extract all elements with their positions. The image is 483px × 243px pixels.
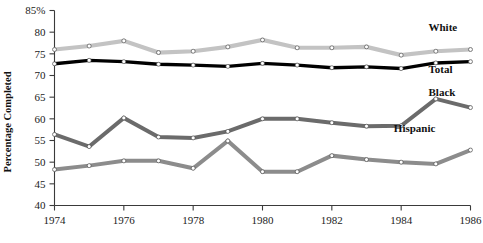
data-point-marker [330,66,334,70]
data-point-marker [191,166,195,170]
data-point-marker [226,130,230,134]
y-tick-label: 40 [35,199,47,211]
data-point-marker [87,145,91,149]
data-point-marker [157,51,161,55]
data-point-marker [157,135,161,139]
data-point-marker [87,58,91,62]
y-axis-title: Percentage Completed [2,71,13,172]
y-tick-label: 65 [35,91,47,103]
y-tick-label: 55 [35,134,47,146]
data-point-marker [191,63,195,67]
y-tick-label: 70 [35,69,47,81]
data-point-marker [226,45,230,49]
data-point-marker [365,45,369,49]
series-label-hispanic: Hispanic [394,122,436,134]
line-chart: Percentage Completed 4045505560657075808… [0,0,483,243]
y-tick-label: 85% [25,4,45,16]
series-line-hispanic [55,141,471,172]
data-point-marker [399,53,403,57]
data-point-marker [191,136,195,140]
data-point-marker [261,38,265,42]
y-tick-label: 60 [35,113,47,125]
data-point-marker [261,170,265,174]
y-tick-label: 50 [35,156,47,168]
chart-page: Percentage Completed 4045505560657075808… [0,0,483,243]
data-point-marker [295,63,299,67]
y-axis-title-text: Percentage Completed [2,71,13,172]
data-point-marker [261,117,265,121]
y-axis-ticks: 40455055606570758085% [25,4,54,211]
series-line-white [55,40,471,55]
data-point-marker [295,170,299,174]
x-tick-label: 1976 [113,214,136,226]
data-point-marker [122,60,126,64]
data-point-marker [365,65,369,69]
data-point-marker [53,62,57,66]
data-point-marker [434,162,438,166]
x-tick-label: 1984 [390,214,413,226]
data-point-marker [226,65,230,69]
data-point-marker [469,148,473,152]
data-point-marker [122,39,126,43]
data-point-marker [122,159,126,163]
x-tick-label: 1974 [44,214,67,226]
data-point-marker [365,158,369,162]
data-point-marker [53,168,57,172]
data-point-marker [295,46,299,50]
data-point-marker [295,117,299,121]
x-tick-label: 1978 [182,214,205,226]
data-point-marker [53,48,57,52]
y-tick-label: 45 [35,178,47,190]
y-tick-label: 80 [35,26,47,38]
data-point-marker [191,49,195,53]
data-point-marker [261,61,265,65]
data-point-marker [330,46,334,50]
series-label-white: White [429,21,458,33]
series-label-black: Black [429,86,457,98]
data-point-marker [157,62,161,66]
data-point-marker [122,116,126,120]
data-point-marker [365,124,369,128]
data-point-marker [434,49,438,53]
series-labels: WhiteTotalBlackHispanic [394,21,458,134]
x-axis-ticks: 1974197619781980198219841986 [44,206,483,226]
data-point-marker [469,60,473,64]
data-point-marker [87,164,91,168]
data-point-marker [157,159,161,163]
marker-group [53,38,473,174]
data-point-marker [330,154,334,158]
y-tick-label: 75 [35,48,47,60]
series-label-total: Total [429,63,453,75]
data-point-marker [399,67,403,71]
data-point-marker [330,121,334,125]
data-point-marker [469,48,473,52]
series-group [55,40,471,172]
data-point-marker [87,44,91,48]
x-tick-label: 1986 [460,214,483,226]
x-tick-label: 1982 [321,214,343,226]
data-point-marker [53,133,57,137]
x-tick-label: 1980 [252,214,275,226]
data-point-marker [399,160,403,164]
data-point-marker [226,139,230,143]
data-point-marker [469,106,473,110]
